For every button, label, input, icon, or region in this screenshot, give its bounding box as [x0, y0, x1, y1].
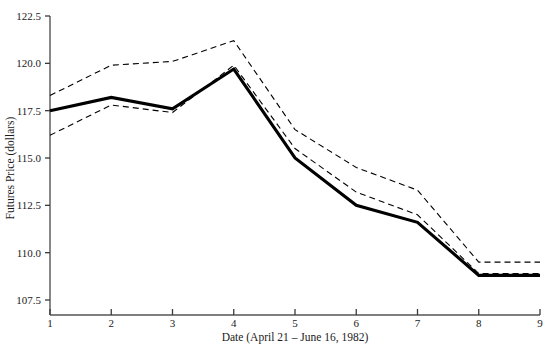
x-tick-label: 9: [537, 317, 543, 329]
x-tick-label: 7: [415, 317, 421, 329]
series-line-dashed: [50, 41, 540, 263]
x-axis-title: Date (April 21 – June 16, 1982): [222, 331, 369, 344]
x-tick-label: 6: [354, 317, 360, 329]
series-layer: [50, 41, 540, 276]
x-tick-label: 8: [476, 317, 482, 329]
y-axis-ticks: 107.5110.0112.5115.0117.5120.0122.5: [16, 10, 50, 306]
x-tick-label: 5: [292, 317, 298, 329]
y-tick-label: 107.5: [16, 294, 41, 306]
x-tick-label: 4: [231, 317, 237, 329]
y-axis-title: Futures Price (dollars): [4, 116, 17, 219]
series-line-dashed: [50, 65, 540, 273]
y-tick-label: 117.5: [17, 105, 42, 117]
y-tick-label: 120.0: [16, 57, 41, 69]
series-line-solid: [50, 69, 540, 275]
x-tick-label: 3: [170, 317, 176, 329]
futures-price-chart: 107.5110.0112.5115.0117.5120.0122.5 1234…: [0, 0, 550, 350]
chart-canvas: 107.5110.0112.5115.0117.5120.0122.5 1234…: [0, 0, 550, 350]
x-tick-label: 2: [109, 317, 115, 329]
x-tick-label: 1: [47, 317, 53, 329]
x-axis-ticks: 123456789: [47, 309, 543, 329]
y-tick-label: 112.5: [17, 199, 42, 211]
y-tick-label: 122.5: [16, 10, 41, 22]
y-tick-label: 115.0: [17, 152, 42, 164]
y-tick-label: 110.0: [17, 247, 42, 259]
